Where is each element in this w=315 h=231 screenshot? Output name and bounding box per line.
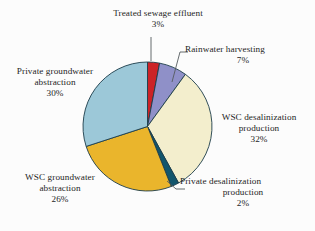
slice-label-text: WSC groundwater [2,172,118,183]
slice-label-text-2: production [180,187,306,198]
slice-label-text-2: production [205,123,313,134]
slice-label-wsc-desalinization-production: WSC desalinization production 32% [205,112,313,146]
slice-label-text: WSC desalinization [205,112,313,123]
slice-label-text: Rainwater harvesting [185,44,313,55]
slice-label-percent: 3% [86,19,230,30]
slice-label-percent: 32% [205,134,313,145]
slice-label-treated-sewage-effluent: Treated sewage effluent 3% [86,8,230,30]
pie-chart-figure: Treated sewage effluent 3% Rainwater har… [0,0,315,231]
slice-label-private-desalinization-production: Private desalinization production 2% [180,176,312,210]
slice-label-text: Private groundwater [2,66,108,77]
slice-label-rainwater-harvesting: Rainwater harvesting 7% [185,44,313,66]
slice-label-percent: 26% [2,194,118,205]
slice-label-private-groundwater-abstraction: Private groundwater abstraction 30% [2,66,108,100]
slice-label-text: Private desalinization [180,176,312,187]
slice-label-percent: 2% [180,198,306,209]
slice-label-percent: 30% [2,88,108,99]
slice-label-wsc-groundwater-abstraction: WSC groundwater abstraction 26% [2,172,118,206]
slice-label-text: Treated sewage effluent [86,8,230,19]
slice-label-text-2: abstraction [2,77,108,88]
slice-label-text-2: abstraction [2,183,118,194]
slice-label-percent: 7% [185,55,301,66]
